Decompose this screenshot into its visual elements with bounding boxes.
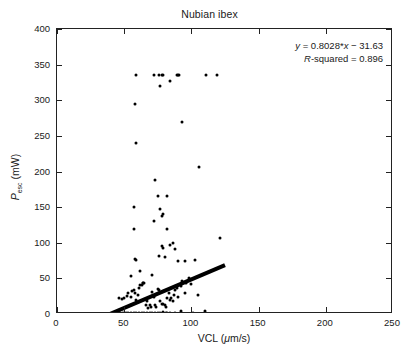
scatter-point bbox=[160, 215, 163, 218]
y-axis-tick bbox=[57, 243, 62, 244]
scatter-point bbox=[167, 291, 170, 294]
scatter-point bbox=[111, 312, 114, 313]
x-axis-tick-top bbox=[259, 29, 260, 34]
scatter-point bbox=[180, 121, 183, 124]
scatter-point bbox=[129, 275, 132, 278]
scatter-point bbox=[171, 241, 174, 244]
scatter-point bbox=[162, 212, 165, 215]
scatter-point bbox=[127, 292, 130, 295]
x-axis-tick-top bbox=[124, 29, 125, 34]
scatter-point bbox=[179, 310, 182, 313]
scatter-point bbox=[146, 300, 149, 303]
scatter-point bbox=[139, 269, 142, 272]
scatter-point bbox=[139, 312, 142, 313]
figure-container: Nubian ibex Pesc (mW) VCL (μm/s) 0501001… bbox=[0, 0, 419, 354]
scatter-point bbox=[166, 227, 169, 230]
scatter-point bbox=[162, 73, 165, 76]
scatter-point bbox=[135, 142, 138, 145]
scatter-point bbox=[120, 312, 123, 313]
y-axis-label-symbol: P bbox=[9, 193, 21, 200]
x-axis-tick-top bbox=[191, 29, 192, 34]
y-axis-tick-right bbox=[386, 65, 391, 66]
fit-equation: y = 0.8028*x − 31.63 bbox=[295, 39, 383, 52]
scatter-point bbox=[154, 179, 157, 182]
y-axis-tick-label: 0 bbox=[10, 308, 50, 319]
scatter-point bbox=[198, 165, 201, 168]
scatter-point bbox=[131, 312, 134, 313]
y-axis-tick-label: 100 bbox=[10, 236, 50, 247]
scatter-point bbox=[155, 305, 158, 308]
x-axis-label-main: VCL ( bbox=[198, 332, 224, 344]
scatter-point bbox=[135, 258, 138, 261]
scatter-point bbox=[179, 284, 182, 287]
scatter-point bbox=[159, 207, 162, 210]
scatter-point bbox=[190, 283, 193, 286]
y-axis-tick bbox=[57, 278, 62, 279]
x-axis-tick bbox=[191, 307, 192, 312]
x-axis-tick bbox=[57, 307, 58, 312]
scatter-point bbox=[159, 85, 162, 88]
scatter-point bbox=[150, 312, 153, 313]
scatter-point bbox=[128, 312, 131, 313]
y-axis-tick-label: 200 bbox=[10, 165, 50, 176]
scatter-point bbox=[175, 287, 178, 290]
scatter-point bbox=[164, 305, 167, 308]
scatter-point bbox=[152, 219, 155, 222]
scatter-point bbox=[151, 290, 154, 293]
scatter-point bbox=[144, 312, 147, 313]
scatter-point bbox=[163, 312, 166, 313]
scatter-point bbox=[171, 312, 174, 313]
x-axis-tick-label: 150 bbox=[250, 317, 266, 328]
scatter-point bbox=[158, 312, 161, 313]
scatter-point bbox=[117, 312, 120, 313]
scatter-point bbox=[152, 312, 155, 313]
x-axis-tick bbox=[326, 307, 327, 312]
page-title: Nubian ibex bbox=[0, 8, 419, 20]
plot-area: y = 0.8028*x − 31.63 R-squared = 0.896 bbox=[56, 28, 392, 313]
y-axis-tick-right bbox=[386, 100, 391, 101]
scatter-point bbox=[158, 289, 161, 292]
scatter-point bbox=[205, 73, 208, 76]
y-axis-tick-label: 350 bbox=[10, 58, 50, 69]
scatter-point bbox=[172, 294, 175, 297]
y-axis-tick bbox=[57, 65, 62, 66]
scatter-point bbox=[152, 295, 155, 298]
y-axis-tick-label: 250 bbox=[10, 129, 50, 140]
y-axis-tick-right bbox=[386, 207, 391, 208]
scatter-point bbox=[156, 195, 159, 198]
scatter-point bbox=[123, 312, 126, 313]
fit-rsquared-r: R bbox=[304, 53, 311, 64]
x-axis-label: VCL (μm/s) bbox=[56, 332, 392, 344]
scatter-point bbox=[187, 276, 190, 279]
scatter-point bbox=[109, 312, 112, 313]
scatter-point bbox=[136, 312, 139, 313]
scatter-point bbox=[135, 73, 138, 76]
y-axis-tick bbox=[57, 172, 62, 173]
scatter-point bbox=[163, 256, 166, 259]
y-axis-tick-label: 300 bbox=[10, 94, 50, 105]
y-axis-tick-right bbox=[386, 243, 391, 244]
scatter-point bbox=[168, 80, 171, 83]
y-axis-tick-label: 150 bbox=[10, 201, 50, 212]
x-axis-label-tail: m/s) bbox=[230, 332, 250, 344]
y-axis-tick-label: 50 bbox=[10, 272, 50, 283]
scatter-point bbox=[162, 246, 165, 249]
scatter-point bbox=[158, 254, 161, 257]
scatter-point bbox=[174, 311, 177, 313]
x-axis-tick-label: 200 bbox=[317, 317, 333, 328]
scatter-point bbox=[180, 280, 183, 283]
scatter-point bbox=[176, 295, 179, 298]
y-axis-tick-right bbox=[386, 136, 391, 137]
x-axis-tick bbox=[259, 307, 260, 312]
scatter-point bbox=[125, 312, 128, 313]
scatter-point bbox=[125, 295, 128, 298]
scatter-point bbox=[203, 310, 206, 313]
y-axis-tick bbox=[57, 100, 62, 101]
scatter-point bbox=[176, 259, 179, 262]
x-axis-tick-label: 100 bbox=[182, 317, 198, 328]
regression-line bbox=[57, 29, 392, 313]
scatter-point bbox=[142, 281, 145, 284]
scatter-point bbox=[115, 312, 118, 313]
fit-annotation: y = 0.8028*x − 31.63 R-squared = 0.896 bbox=[295, 39, 383, 65]
scatter-point bbox=[132, 206, 135, 209]
